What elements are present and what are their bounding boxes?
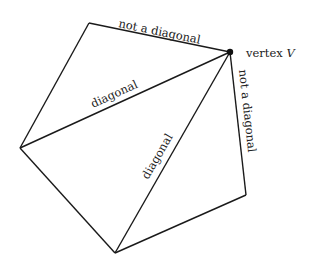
edge-bottom-right	[115, 195, 246, 253]
diagonal-to-left-vertex	[20, 52, 230, 148]
vertex-prefix: vertex	[245, 46, 286, 60]
polygon-diagonals-diagram: not a diagonal not a diagonal diagonal d…	[0, 0, 313, 265]
vertex-name: V	[286, 46, 296, 60]
vertex-v-dot	[227, 49, 233, 55]
label-vertex-v: vertex V	[245, 46, 296, 60]
label-top-edge: not a diagonal	[117, 16, 202, 47]
edge-left	[20, 23, 89, 148]
edge-bottom-left	[20, 148, 115, 253]
